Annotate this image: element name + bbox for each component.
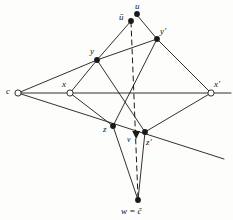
edge-ubar-to-w-dashed [131, 22, 138, 198]
node-marker-y [94, 57, 100, 63]
label-v: v [127, 136, 131, 144]
edge-y-to-zprime [97, 60, 145, 132]
node-marker-x [67, 90, 73, 96]
node-marker-x-prime [208, 90, 214, 96]
node-marker-u [134, 11, 140, 17]
node-marker-c [15, 90, 21, 96]
edge-z-to-w [113, 126, 138, 200]
node-marker-z-prime [142, 129, 148, 135]
label-y-prime: y′ [160, 27, 166, 36]
edge-u-to-yprime [137, 15, 157, 39]
label-z-prime: z′ [146, 138, 152, 147]
label-x: x [62, 80, 66, 89]
edge-zprime-to-xprime [145, 93, 211, 132]
label-x-prime: x′ [214, 80, 220, 89]
label-y: y [90, 47, 94, 56]
node-marker-y-prime [154, 36, 160, 42]
edge-x-to-z [70, 93, 113, 126]
geometry-figure: c x x′ y y′ z z′ u ū v w = č [0, 0, 233, 220]
label-u: u [135, 2, 140, 11]
edge-yprime-to-xprime [157, 39, 211, 93]
edge-group [18, 15, 231, 200]
label-w-equals-c-hat: w = č [121, 207, 142, 216]
figure-canvas [0, 0, 233, 220]
node-marker-u-bar [128, 18, 134, 24]
label-z: z [103, 125, 107, 134]
label-c: c [6, 87, 10, 96]
label-u-bar: ū [119, 13, 124, 22]
node-marker-v-triangle [132, 131, 140, 139]
edge-y-to-x [70, 60, 97, 93]
edge-c-to-y [18, 60, 97, 93]
node-marker-z [110, 123, 116, 129]
node-marker-w [135, 197, 141, 203]
edge-zprime-to-w [138, 132, 145, 200]
